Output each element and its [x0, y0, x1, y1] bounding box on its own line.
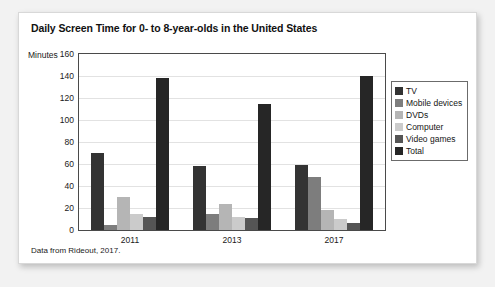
bar	[130, 214, 143, 231]
bar	[206, 214, 219, 231]
y-tick-label: 80	[65, 137, 74, 147]
legend-item-video-games: Video games	[395, 133, 462, 145]
plot-area: 020406080100120140160 201120132017	[78, 53, 386, 231]
legend-item-computer: Computer	[395, 121, 462, 133]
x-tick-label: 2017	[325, 235, 344, 245]
y-tick-label: 100	[60, 115, 74, 125]
bar	[91, 153, 104, 230]
legend-swatch-icon	[395, 87, 403, 95]
bar	[295, 165, 308, 230]
bar	[321, 210, 334, 230]
chart-card: Daily Screen Time for 0- to 8-year-olds …	[18, 12, 477, 264]
legend-item-label: DVDs	[406, 111, 428, 120]
bar	[308, 177, 321, 230]
legend-swatch-icon	[395, 135, 403, 143]
bar-group	[193, 54, 271, 230]
legend-swatch-icon	[395, 99, 403, 107]
legend-item-mobile-devices: Mobile devices	[395, 97, 462, 109]
legend-swatch-icon	[395, 111, 403, 119]
y-tick-label: 140	[60, 71, 74, 81]
legend-item-total: Total	[395, 145, 462, 157]
chart-legend: TVMobile devicesDVDsComputerVideo gamesT…	[391, 81, 468, 161]
bar	[360, 76, 373, 230]
bar	[117, 197, 130, 230]
y-tick-label: 40	[65, 181, 74, 191]
bars-layer	[79, 54, 385, 230]
bar	[193, 166, 206, 230]
source-note: Data from Rideout, 2017.	[31, 246, 120, 255]
y-tick-label: 0	[69, 225, 74, 235]
bar	[104, 225, 117, 231]
y-tick-label: 60	[65, 159, 74, 169]
legend-item-label: Video games	[406, 135, 455, 144]
legend-swatch-icon	[395, 123, 403, 131]
bar-group	[295, 54, 373, 230]
bar	[347, 223, 360, 230]
legend-item-label: Computer	[406, 123, 443, 132]
y-tick-label: 20	[65, 203, 74, 213]
chart-title: Daily Screen Time for 0- to 8-year-olds …	[31, 22, 317, 34]
y-axis-title: Minutes	[28, 50, 58, 60]
bar	[334, 219, 347, 230]
bar	[258, 104, 271, 231]
bar-group	[91, 54, 169, 230]
bar	[232, 217, 245, 230]
y-tick-label: 120	[60, 93, 74, 103]
legend-item-label: Total	[406, 147, 424, 156]
y-tick-label: 160	[60, 49, 74, 59]
bar	[219, 204, 232, 230]
bar	[143, 217, 156, 230]
x-tick-label: 2011	[121, 235, 139, 245]
bar	[245, 218, 258, 230]
legend-item-label: TV	[406, 87, 417, 96]
x-tick-label: 2013	[223, 235, 242, 245]
bar	[156, 78, 169, 230]
legend-item-label: Mobile devices	[406, 99, 462, 108]
legend-swatch-icon	[395, 147, 403, 155]
legend-item-tv: TV	[395, 85, 462, 97]
legend-item-dvds: DVDs	[395, 109, 462, 121]
